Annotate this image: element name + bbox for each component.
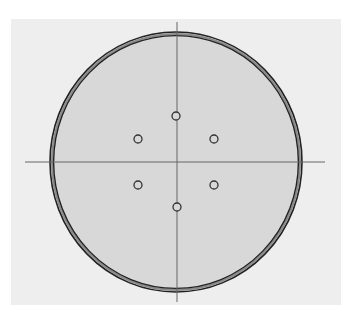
hole-lower-right: [210, 181, 218, 189]
hole-bottom: [173, 203, 181, 211]
hole-top: [172, 112, 180, 120]
hole-upper-left: [134, 135, 142, 143]
hole-lower-left: [134, 181, 142, 189]
hole-upper-right: [210, 135, 218, 143]
plate-diagram: [0, 0, 352, 317]
